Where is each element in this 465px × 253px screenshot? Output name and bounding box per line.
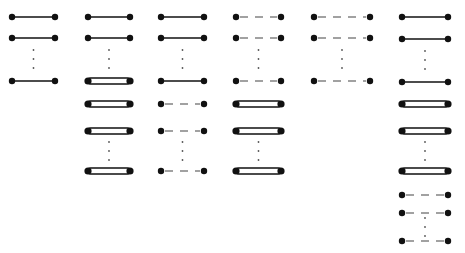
endpoint-dot [158, 14, 164, 20]
dashed-chord [311, 14, 373, 20]
solid-chord [85, 14, 133, 20]
endpoint-dot [444, 100, 451, 107]
dashed-chord [399, 192, 451, 198]
solid-chord [9, 78, 58, 84]
solid-chord [9, 14, 58, 20]
solid-chord [158, 14, 207, 20]
endpoint-dot [444, 167, 451, 174]
vertical-ellipsis [108, 141, 110, 161]
endpoint-dot [232, 100, 239, 107]
endpoint-dot [158, 168, 164, 174]
vertical-ellipsis [424, 217, 426, 237]
dashed-chord [233, 35, 284, 41]
endpoint-dot [277, 127, 284, 134]
band-chord [232, 100, 284, 107]
vertical-ellipsis [182, 49, 184, 69]
endpoint-dot [311, 78, 317, 84]
vertical-ellipsis [258, 141, 260, 161]
endpoint-dot [85, 35, 91, 41]
endpoint-dot [52, 78, 58, 84]
endpoint-dot [232, 127, 239, 134]
band-chord [232, 167, 284, 174]
endpoint-dot [311, 35, 317, 41]
dashed-chord [399, 238, 451, 244]
endpoint-dot [445, 14, 451, 20]
endpoint-dot [84, 167, 91, 174]
solid-chord [399, 79, 451, 85]
dashed-chord [311, 35, 373, 41]
endpoint-dot [399, 14, 405, 20]
vertical-ellipsis [424, 141, 426, 161]
dashed-chord [158, 168, 207, 174]
endpoint-dot [367, 78, 373, 84]
endpoint-dot [278, 78, 284, 84]
vertical-ellipsis [424, 50, 426, 70]
diagram-column-3 [158, 14, 207, 174]
endpoint-dot [126, 127, 133, 134]
solid-chord [85, 35, 133, 41]
endpoint-dot [201, 78, 207, 84]
endpoint-dot [445, 210, 451, 216]
dashed-chord [158, 128, 207, 134]
endpoint-dot [201, 35, 207, 41]
endpoint-dot [127, 35, 133, 41]
endpoint-dot [201, 128, 207, 134]
endpoint-dot [445, 79, 451, 85]
endpoint-dot [126, 100, 133, 107]
endpoint-dot [85, 14, 91, 20]
band-chord [398, 100, 451, 107]
dashed-chord [233, 78, 284, 84]
endpoint-dot [277, 100, 284, 107]
endpoint-dot [158, 35, 164, 41]
endpoint-dot [367, 14, 373, 20]
solid-chord [399, 36, 451, 42]
vertical-ellipsis [108, 49, 110, 69]
endpoint-dot [444, 127, 451, 134]
endpoint-dot [367, 35, 373, 41]
endpoint-dot [201, 101, 207, 107]
dashed-chord [311, 78, 373, 84]
endpoint-dot [445, 192, 451, 198]
endpoint-dot [278, 35, 284, 41]
diagram-column-1 [9, 14, 58, 84]
endpoint-dot [9, 78, 15, 84]
vertical-ellipsis [258, 49, 260, 69]
endpoint-dot [127, 14, 133, 20]
endpoint-dot [398, 127, 405, 134]
endpoint-dot [9, 35, 15, 41]
solid-chord [158, 35, 207, 41]
endpoint-dot [278, 14, 284, 20]
band-chord [84, 167, 133, 174]
endpoint-dot [233, 35, 239, 41]
endpoint-dot [84, 127, 91, 134]
endpoint-dot [232, 167, 239, 174]
endpoint-dot [399, 210, 405, 216]
band-chord [398, 127, 451, 134]
diagram-column-6 [398, 14, 451, 244]
endpoint-dot [9, 14, 15, 20]
solid-chord [9, 35, 58, 41]
endpoint-dot [84, 100, 91, 107]
chord-diagram-figure [0, 0, 465, 253]
dashed-chord [158, 101, 207, 107]
endpoint-dot [445, 238, 451, 244]
diagram-column-4 [232, 14, 284, 175]
endpoint-dot [445, 36, 451, 42]
endpoint-dot [277, 167, 284, 174]
vertical-ellipsis [341, 49, 343, 69]
diagram-column-5 [311, 14, 373, 84]
endpoint-dot [398, 100, 405, 107]
endpoint-dot [52, 14, 58, 20]
endpoint-dot [399, 36, 405, 42]
endpoint-dot [126, 167, 133, 174]
band-chord [84, 100, 133, 107]
endpoint-dot [158, 101, 164, 107]
vertical-ellipsis [182, 141, 184, 161]
endpoint-dot [158, 128, 164, 134]
endpoint-dot [158, 78, 164, 84]
endpoint-dot [233, 14, 239, 20]
band-chord [84, 77, 133, 84]
endpoint-dot [84, 77, 91, 84]
endpoint-dot [126, 77, 133, 84]
endpoint-dot [399, 79, 405, 85]
